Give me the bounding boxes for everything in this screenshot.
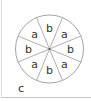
sector-label: a — [61, 28, 68, 41]
corner-label: c — [18, 82, 24, 95]
sector-label: a — [31, 58, 38, 71]
sector-label: a — [61, 58, 68, 71]
sector-label: b — [46, 22, 53, 35]
sector-label: b — [25, 43, 32, 56]
sector-label: b — [46, 64, 53, 77]
sector-label: b — [67, 43, 74, 56]
sector-label: a — [31, 28, 38, 41]
center-dot — [49, 48, 51, 50]
sector-circle: babababa — [0, 0, 91, 101]
